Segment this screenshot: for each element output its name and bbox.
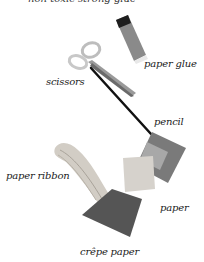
craft-materials-illustration: non-toxic strong glue: [0, 0, 204, 262]
paper-glue-icon: [116, 15, 148, 64]
label-scissors: scissors: [46, 76, 85, 87]
materials-drawing: [0, 0, 204, 262]
paper-icon: [123, 132, 186, 192]
scissors-icon: [67, 40, 136, 97]
label-pencil: pencil: [154, 116, 184, 127]
label-paper-glue: paper glue: [144, 58, 197, 69]
label-crepe-paper: crêpe paper: [80, 246, 139, 257]
label-paper-ribbon: paper ribbon: [6, 170, 69, 181]
label-paper: paper: [160, 202, 188, 213]
pencil-icon: [91, 68, 151, 134]
crepe-paper-icon: [82, 189, 142, 237]
